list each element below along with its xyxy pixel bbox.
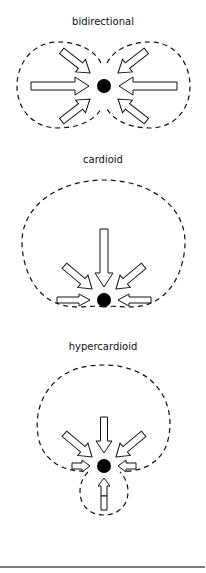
arrow-icon: [111, 260, 149, 295]
arrow-icon: [95, 229, 113, 287]
arrow-icon: [59, 428, 97, 463]
bidirectional-pattern: [17, 42, 190, 128]
arrow-icon: [111, 428, 149, 463]
arrow-icon: [31, 77, 89, 95]
arrow-icon: [57, 45, 95, 80]
arrow-icon: [98, 478, 110, 496]
microphone-dot: [97, 293, 111, 307]
arrow-icon: [118, 294, 151, 306]
microphone-dot: [97, 459, 111, 473]
arrow-icon: [118, 460, 136, 472]
arrow-icon: [57, 294, 90, 306]
arrow-icon: [113, 45, 151, 80]
arrow-icon: [119, 77, 177, 95]
microphone-dot: [97, 79, 111, 93]
arrow-icon: [57, 93, 95, 128]
hypercardioid-pattern: [37, 365, 170, 515]
arrow-icon: [113, 93, 151, 128]
arrow-icon: [96, 417, 112, 453]
cardioid-pattern: [22, 180, 185, 307]
polar-pattern-diagram: [0, 0, 206, 573]
bottom-divider: [0, 566, 205, 568]
arrow-icon: [59, 260, 97, 295]
